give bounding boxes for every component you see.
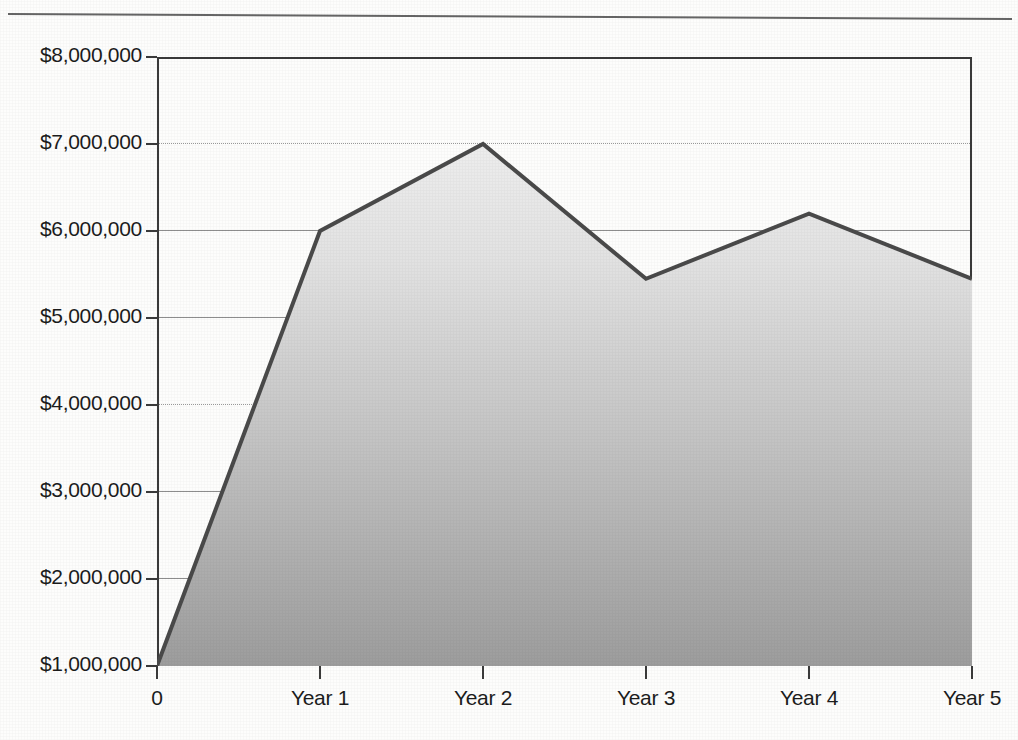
y-axis-tick-label-wrap: $5,000,000 [0, 304, 142, 330]
x-axis-tick [645, 666, 647, 679]
y-axis-tick [146, 317, 157, 319]
y-axis-tick [146, 404, 157, 406]
y-axis-tick [146, 578, 157, 580]
y-axis-tick-label: $2,000,000 [2, 565, 142, 589]
y-axis-tick [146, 143, 157, 145]
y-axis-tick-label: $4,000,000 [2, 391, 142, 415]
y-axis-tick-label-wrap: $8,000,000 [0, 43, 142, 69]
area-fill [157, 144, 972, 666]
y-axis-tick-label-wrap: $1,000,000 [0, 652, 142, 678]
x-axis-tick-label: Year 4 [729, 686, 889, 710]
y-axis-tick-label: $7,000,000 [2, 130, 142, 154]
x-axis-tick [482, 666, 484, 679]
y-axis-tick [146, 491, 157, 493]
y-axis-tick-label-wrap: $7,000,000 [0, 130, 142, 156]
x-axis-tick-label: 0 [77, 686, 237, 710]
x-axis-tick-label: Year 5 [892, 686, 1018, 710]
x-axis-tick-label: Year 3 [566, 686, 726, 710]
area-chart: $1,000,000$2,000,000$3,000,000$4,000,000… [0, 0, 1018, 740]
series-area [157, 57, 972, 666]
x-axis-tick [808, 666, 810, 679]
y-axis-tick-label: $3,000,000 [2, 478, 142, 502]
y-axis-tick-label-wrap: $4,000,000 [0, 391, 142, 417]
y-axis-tick-label: $6,000,000 [2, 217, 142, 241]
y-axis-tick-label: $8,000,000 [2, 43, 142, 67]
y-axis-tick-label: $5,000,000 [2, 304, 142, 328]
x-axis-tick [156, 666, 158, 679]
x-axis-tick-label: Year 1 [240, 686, 400, 710]
x-axis-tick-label: Year 2 [403, 686, 563, 710]
y-axis-tick [146, 230, 157, 232]
y-axis-tick [146, 56, 157, 58]
y-axis-tick-label: $1,000,000 [2, 652, 142, 676]
y-axis-tick-label-wrap: $3,000,000 [0, 478, 142, 504]
x-axis-tick [971, 666, 973, 679]
x-axis-tick [319, 666, 321, 679]
y-axis-tick-label-wrap: $6,000,000 [0, 217, 142, 243]
y-axis-tick-label-wrap: $2,000,000 [0, 565, 142, 591]
